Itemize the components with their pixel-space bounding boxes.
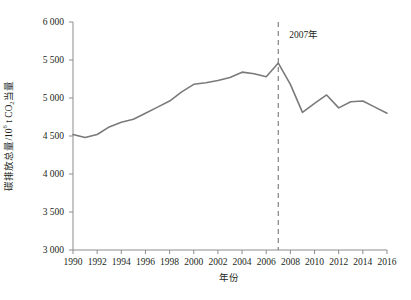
y-axis-title-unit-tail: 当量	[4, 81, 14, 101]
y-axis-title-exponent: 6	[1, 125, 8, 128]
y-axis-tick-label: 5 000	[20, 93, 64, 103]
y-axis-tick-label: 4 000	[20, 169, 64, 179]
y-axis-title-main: 碳排放总量/10	[4, 128, 14, 190]
x-axis-tick-label: 1998	[160, 257, 179, 267]
x-axis-tick-label: 2010	[305, 257, 324, 267]
carbon-emissions-line-chart: 6 0005 5005 0004 5004 0003 5003 000 1990…	[0, 0, 411, 300]
x-axis-tick-label: 1992	[88, 257, 107, 267]
x-axis-tick-label: 2004	[233, 257, 252, 267]
x-axis-tick-label: 1994	[112, 257, 131, 267]
emissions-data-line	[73, 63, 387, 137]
annotation-label-2007: 2007年	[289, 27, 318, 41]
x-axis-tick-label: 2016	[378, 257, 397, 267]
x-axis-tick-label: 2006	[257, 257, 276, 267]
y-axis-title-subscript: 2	[8, 101, 15, 104]
x-axis-tick-label: 1996	[136, 257, 155, 267]
x-axis-tick-label: 2014	[353, 257, 372, 267]
x-axis-tick-label: 2012	[329, 257, 348, 267]
x-axis-tick-label: 2008	[281, 257, 300, 267]
x-axis-tick-label: 1990	[64, 257, 83, 267]
y-axis-tick-label: 3 500	[20, 207, 64, 217]
axes	[69, 22, 387, 254]
y-axis-tick-label: 5 500	[20, 55, 64, 65]
y-axis-ticks	[69, 22, 73, 250]
y-axis-tick-label: 6 000	[20, 17, 64, 27]
x-axis-ticks	[73, 250, 387, 254]
x-axis-tick-label: 2002	[208, 257, 227, 267]
x-axis-tick-label: 2000	[184, 257, 203, 267]
y-axis-title-unit-mid: t CO	[4, 105, 14, 126]
plot-area	[0, 0, 411, 300]
y-axis-tick-label: 3 000	[20, 245, 64, 255]
x-axis-title: 年份	[219, 270, 239, 284]
y-axis-title: 碳排放总量/106 t CO2当量	[1, 81, 16, 190]
y-axis-tick-label: 4 500	[20, 131, 64, 141]
